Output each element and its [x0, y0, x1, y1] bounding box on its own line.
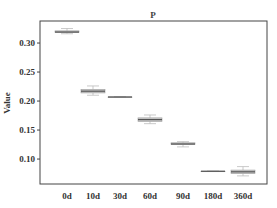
- x-tick-label: 0d: [62, 191, 72, 201]
- x-tick-label: 30d: [113, 191, 127, 201]
- x-tick-label: 90d: [176, 191, 190, 201]
- x-tick-label: 60d: [143, 191, 157, 201]
- box-10d: [81, 86, 105, 95]
- box-series: [55, 29, 255, 176]
- box-30d: [108, 97, 132, 98]
- y-axis: 0.100.150.200.250.30: [19, 38, 40, 164]
- x-tick-label: 180d: [204, 191, 223, 201]
- x-tick-label: 10d: [86, 191, 100, 201]
- y-tick-label: 0.10: [19, 154, 35, 164]
- y-tick-label: 0.20: [19, 96, 35, 106]
- y-tick-label: 0.30: [19, 38, 35, 48]
- y-axis-title: Value: [2, 92, 12, 114]
- x-tick-label: 360d: [234, 191, 253, 201]
- box-90d: [171, 142, 195, 147]
- box-plot-chart: P 0.100.150.200.250.30 Value 0d10d30d60d…: [0, 0, 277, 208]
- chart-title: P: [150, 10, 156, 20]
- box-0d: [55, 29, 79, 34]
- x-axis: 0d10d30d60d90d180d360d: [62, 191, 252, 201]
- y-tick-label: 0.25: [19, 67, 35, 77]
- plot-frame: [40, 21, 267, 184]
- box-360d: [231, 167, 255, 176]
- box-180d: [201, 171, 225, 172]
- box-60d: [138, 115, 162, 124]
- y-tick-label: 0.15: [19, 125, 35, 135]
